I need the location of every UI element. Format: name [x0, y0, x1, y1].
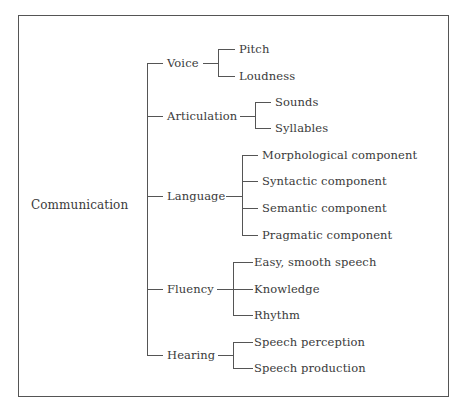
connector: [255, 128, 271, 129]
branch-fluency: Fluency: [167, 282, 214, 296]
connector: [218, 76, 235, 77]
connector: [147, 116, 163, 117]
leaf-syllables: Syllables: [275, 121, 328, 135]
branch-articulation: Articulation: [167, 109, 237, 123]
connector: [242, 235, 258, 236]
connector: [242, 181, 258, 182]
connector: [203, 63, 218, 64]
branch-voice: Voice: [167, 56, 199, 70]
connector: [218, 49, 235, 50]
leaf-speech-production: Speech production: [254, 361, 366, 375]
connector: [218, 355, 233, 356]
branch-hearing: Hearing: [167, 348, 215, 362]
bracket-line: [233, 262, 234, 315]
connector: [255, 102, 271, 103]
root-node-communication: Communication: [31, 198, 128, 212]
leaf-knowledge: Knowledge: [254, 282, 320, 296]
bracket-line: [218, 49, 219, 76]
leaf-syntactic: Syntactic component: [262, 174, 387, 188]
connector: [242, 208, 258, 209]
leaf-pragmatic: Pragmatic component: [262, 228, 392, 242]
leaf-sounds: Sounds: [275, 95, 318, 109]
leaf-speech-perception: Speech perception: [254, 335, 365, 349]
connector: [147, 289, 163, 290]
leaf-semantic: Semantic component: [262, 201, 387, 215]
bracket-line: [255, 102, 256, 128]
leaf-rhythm: Rhythm: [254, 308, 300, 322]
connector: [147, 196, 163, 197]
connector: [233, 315, 253, 316]
connector: [233, 368, 253, 369]
connector: [226, 196, 242, 197]
connector: [233, 342, 253, 343]
leaf-loudness: Loudness: [239, 69, 295, 83]
bracket-line: [242, 155, 243, 235]
connector: [242, 155, 258, 156]
connector: [240, 116, 255, 117]
connector: [147, 355, 163, 356]
trunk-line: [147, 63, 148, 355]
bracket-line: [233, 342, 234, 368]
branch-language: Language: [167, 189, 226, 203]
connector: [217, 289, 253, 290]
leaf-morphological: Morphological component: [262, 148, 417, 162]
connector: [147, 63, 163, 64]
leaf-easy-smooth-speech: Easy, smooth speech: [254, 255, 376, 269]
connector: [233, 262, 253, 263]
leaf-pitch: Pitch: [239, 42, 269, 56]
